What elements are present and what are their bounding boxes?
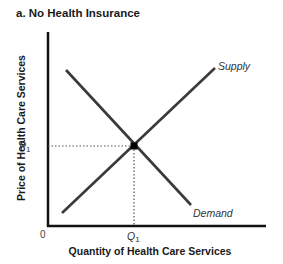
plot-area: Supply Demand P1 Q1 0 (0, 0, 283, 264)
supply-label: Supply (218, 60, 251, 72)
demand-label: Demand (193, 207, 234, 219)
p1-tick-label: P1 (19, 140, 31, 154)
demand-curve (66, 70, 191, 205)
q1-tick-label: Q1 (127, 230, 140, 244)
equilibrium-point (131, 143, 138, 150)
origin-label: 0 (40, 229, 46, 240)
